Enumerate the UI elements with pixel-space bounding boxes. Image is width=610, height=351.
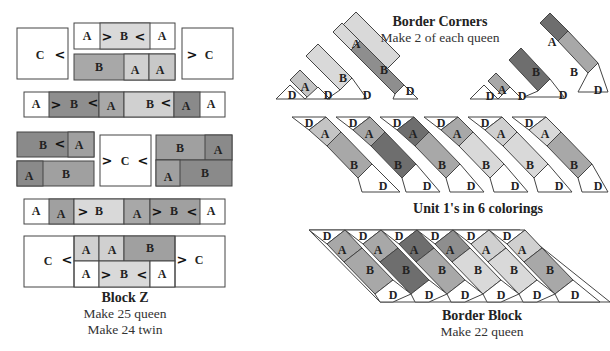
svg-text:B: B — [438, 263, 446, 277]
svg-text:A: A — [374, 243, 383, 257]
svg-text:B: B — [474, 263, 482, 277]
svg-text:D: D — [555, 179, 564, 193]
border-block-title: Border Block — [417, 308, 547, 324]
svg-text:B: B — [201, 166, 209, 180]
svg-text:D: D — [481, 116, 490, 130]
svg-text:D: D — [379, 179, 388, 193]
svg-text:B: B — [350, 158, 358, 172]
svg-text:B: B — [170, 204, 178, 218]
border-block — [309, 230, 610, 302]
svg-text:C: C — [44, 254, 53, 268]
svg-text:D: D — [288, 88, 297, 102]
svg-text:B: B — [39, 138, 47, 152]
svg-text:A: A — [182, 99, 191, 113]
svg-text:A: A — [32, 204, 41, 218]
svg-text:A: A — [497, 127, 506, 141]
svg-text:A: A — [32, 97, 41, 111]
svg-text:A: A — [82, 243, 91, 257]
svg-text:A: A — [548, 35, 557, 49]
svg-text:A: A — [446, 243, 455, 257]
svg-text:<: < — [161, 95, 172, 110]
svg-text:A: A — [158, 267, 167, 281]
svg-text:>: > — [177, 252, 188, 267]
svg-text:<: < — [137, 267, 148, 282]
svg-text:D: D — [423, 179, 432, 193]
svg-text:B: B — [510, 263, 518, 277]
svg-text:A: A — [410, 243, 419, 257]
svg-text:C: C — [195, 253, 204, 267]
unit1-caption-text: Unit 1's in 6 colorings — [378, 201, 578, 217]
svg-text:B: B — [380, 63, 388, 77]
svg-text:B: B — [120, 267, 128, 281]
svg-text:A: A — [83, 29, 92, 43]
svg-text:B: B — [176, 141, 184, 155]
svg-text:D: D — [559, 88, 568, 102]
svg-text:<: < — [88, 95, 99, 110]
svg-text:D: D — [324, 88, 333, 102]
svg-text:D: D — [571, 288, 580, 302]
border-block-subtitle: Make 22 queen — [417, 324, 547, 340]
svg-text:D: D — [497, 288, 506, 302]
svg-text:A: A — [409, 127, 418, 141]
border-corners-caption: Border Corners Make 2 of each queen — [360, 14, 520, 46]
svg-text:C: C — [121, 154, 130, 168]
svg-text:B: B — [532, 65, 540, 79]
svg-text:B: B — [394, 158, 402, 172]
svg-text:D: D — [525, 116, 534, 130]
svg-text:A: A — [498, 83, 507, 97]
svg-text:A: A — [75, 138, 84, 152]
svg-text:B: B — [95, 60, 103, 74]
svg-text:A: A — [482, 243, 491, 257]
svg-text:D: D — [406, 84, 415, 98]
svg-text:D: D — [363, 88, 372, 102]
svg-text:D: D — [395, 229, 404, 243]
svg-text:B: B — [526, 158, 534, 172]
svg-text:<: < — [55, 136, 66, 151]
svg-text:B: B — [438, 158, 446, 172]
border-block-caption: Border Block Make 22 queen — [417, 308, 547, 340]
svg-text:B: B — [402, 263, 410, 277]
svg-text:D: D — [389, 288, 398, 302]
svg-text:A: A — [164, 170, 173, 184]
svg-text:A: A — [321, 127, 330, 141]
svg-text:D: D — [533, 288, 542, 302]
svg-text:>: > — [102, 153, 113, 168]
svg-text:D: D — [518, 89, 527, 103]
svg-text:A: A — [338, 243, 347, 257]
svg-text:B: B — [120, 29, 128, 43]
svg-text:A: A — [156, 63, 165, 77]
svg-text:A: A — [57, 207, 66, 221]
svg-text:B: B — [570, 158, 578, 172]
svg-text:A: A — [108, 243, 117, 257]
svg-text:>: > — [78, 204, 89, 219]
svg-text:D: D — [594, 179, 603, 193]
svg-text:A: A — [541, 127, 550, 141]
svg-text:D: D — [486, 89, 495, 103]
svg-text:A: A — [25, 169, 34, 183]
svg-text:A: A — [453, 127, 462, 141]
svg-text:D: D — [467, 229, 476, 243]
svg-text:D: D — [511, 179, 520, 193]
svg-text:A: A — [518, 243, 527, 257]
svg-text:<: < — [55, 47, 66, 62]
svg-text:A: A — [365, 127, 374, 141]
svg-text:B: B — [366, 263, 374, 277]
svg-text:C: C — [205, 48, 214, 62]
svg-text:>: > — [102, 29, 113, 44]
svg-text:D: D — [594, 83, 603, 97]
svg-text:D: D — [359, 229, 368, 243]
border-corners-title: Border Corners — [360, 14, 520, 30]
svg-text:B: B — [146, 241, 154, 255]
svg-text:B: B — [482, 158, 490, 172]
svg-text:>: > — [152, 204, 163, 219]
svg-text:C: C — [36, 48, 45, 62]
svg-text:D: D — [437, 116, 446, 130]
svg-text:D: D — [323, 229, 332, 243]
svg-text:D: D — [461, 288, 470, 302]
svg-text:A: A — [214, 143, 223, 157]
svg-text:A: A — [207, 204, 216, 218]
svg-text:<: < — [187, 204, 198, 219]
svg-text:>: > — [51, 97, 62, 112]
block-z-line-1: Make 25 queen — [60, 306, 190, 322]
svg-text:B: B — [95, 204, 103, 218]
